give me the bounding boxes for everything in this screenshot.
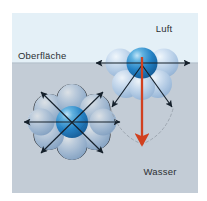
label-wasser: Wasser [143,166,176,177]
label-oberflaeche: Oberfläche [18,50,66,61]
figure-canvas: Luft Oberfläche Wasser [12,13,198,193]
surface-tension-diagram: Luft Oberfläche Wasser [12,13,198,193]
label-luft: Luft [156,23,173,34]
